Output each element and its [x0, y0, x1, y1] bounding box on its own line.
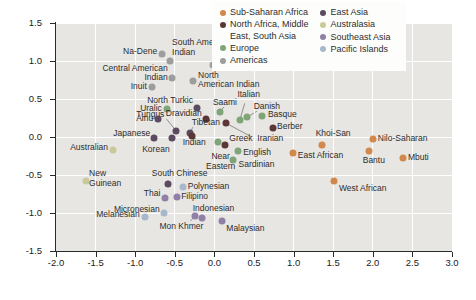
legend-label: North Africa, Middle East, South Asia — [230, 19, 314, 42]
legend-item-pacific-islands: Pacific Islands — [320, 44, 400, 55]
y-tick — [50, 251, 55, 252]
data-point-korean — [168, 134, 175, 141]
data-point-basque — [258, 112, 265, 119]
legend-item-east-asia: East Asia — [320, 7, 400, 18]
point-label-new-guinean: New Guinean — [89, 170, 121, 189]
data-point-inuit — [148, 83, 155, 90]
point-label-thai: Thai — [144, 189, 161, 199]
data-point-filipino — [174, 194, 181, 201]
point-label-west-african: West African — [339, 184, 387, 194]
data-point-italian — [236, 117, 243, 124]
legend-swatch-pacific-islands — [320, 46, 326, 52]
y-tick — [50, 61, 55, 62]
legend-column-right: East AsiaAustralasiaSoutheast AsiaPacifi… — [320, 7, 400, 67]
y-tick-label: 0.5 — [8, 93, 42, 104]
legend-swatch-sub-saharan-africa — [220, 10, 226, 16]
point-label-greek: Greek — [229, 135, 252, 145]
y-tick — [50, 213, 55, 214]
data-point-khoi-san — [319, 142, 326, 149]
point-label-malaysian: Malaysian — [226, 225, 264, 235]
legend-swatch-southeast-asia — [320, 34, 326, 40]
data-point-na-dene — [159, 51, 166, 58]
point-label-mbuti: Mbuti — [408, 154, 429, 164]
y-tick — [50, 99, 55, 100]
data-point-south-chinese — [164, 181, 171, 188]
data-point-mbuti — [399, 155, 406, 162]
data-point-malaysian — [219, 218, 226, 225]
data-point-central-american-indian — [168, 74, 175, 81]
x-tick-label: -2.0 — [39, 257, 73, 268]
point-label-english: English — [243, 148, 271, 158]
data-point-iranian — [223, 120, 230, 127]
y-axis-spine — [55, 22, 56, 252]
data-point-thai — [162, 194, 169, 201]
legend: Sub-Saharan AfricaNorth Africa, Middle E… — [212, 2, 406, 71]
data-point-berber — [270, 124, 277, 131]
point-label-east-african: East African — [298, 151, 343, 161]
point-label-bantu: Bantu — [363, 156, 385, 166]
legend-item-southeast-asia: Southeast Asia — [320, 32, 400, 43]
legend-swatch-east-asia — [320, 10, 326, 16]
point-label-indian: Indian — [183, 138, 206, 148]
figure-container: Na-DeneSouth American IndianChukchiCentr… — [0, 0, 476, 300]
point-label-mon-khmer: Mon Khmer — [159, 222, 203, 232]
legend-item-sub-saharan-africa: Sub-Saharan Africa — [220, 7, 314, 18]
x-tick-label: -1.5 — [79, 257, 113, 268]
x-tick-label: -0.5 — [158, 257, 192, 268]
legend-label: Australasia — [330, 19, 375, 30]
y-tick-label: -1.5 — [8, 245, 42, 256]
point-label-ainu: Ainu — [136, 114, 153, 124]
legend-item-europe: Europe — [220, 43, 314, 54]
legend-swatch-north-africa-middle-east-south-asia — [220, 22, 226, 28]
legend-label: Southeast Asia — [330, 32, 390, 43]
point-label-nilo-saharan: Nilo-Saharan — [378, 135, 428, 145]
point-label-north-american-indian: North American Indian — [198, 71, 259, 90]
x-tick-label: 0.0 — [197, 257, 231, 268]
x-tick-label: 1.0 — [277, 257, 311, 268]
point-label-italian: Italian — [237, 91, 260, 101]
y-tick-label: -1.0 — [8, 207, 42, 218]
y-tick — [50, 175, 55, 176]
data-point-ainu — [155, 115, 162, 122]
data-point-north-american-indian — [190, 77, 197, 84]
point-label-filipino: Filipino — [181, 192, 208, 202]
data-point-west-african — [330, 178, 337, 185]
data-point-japanese — [151, 134, 158, 141]
data-point-australian — [110, 146, 117, 153]
legend-swatch-australasia — [320, 22, 326, 28]
data-point-tungus — [173, 127, 180, 134]
x-tick-label: -1.0 — [118, 257, 152, 268]
data-point-mon-khmer — [192, 213, 199, 220]
legend-label: Americas — [230, 55, 268, 66]
data-point-micronesian — [160, 210, 167, 217]
legend-label: Europe — [230, 43, 259, 54]
y-tick-label: 0.0 — [8, 131, 42, 142]
legend-column-left: Sub-Saharan AfricaNorth Africa, Middle E… — [220, 7, 314, 67]
point-label-na-dene: Na-Dene — [123, 47, 157, 57]
data-point-bantu — [365, 147, 372, 154]
point-label-khoi-san: Khoi-San — [316, 130, 351, 140]
data-point-sardinian — [229, 156, 236, 163]
legend-item-australasia: Australasia — [320, 19, 400, 30]
point-label-indonesian: Indonesian — [193, 205, 235, 215]
legend-item-north-africa-middle-east-south-asia: North Africa, Middle East, South Asia — [220, 19, 314, 42]
data-point-danish — [243, 114, 250, 121]
x-tick-label: 1.5 — [316, 257, 350, 268]
data-point-saami — [216, 108, 223, 115]
point-label-saami: Saami — [213, 98, 237, 108]
point-label-australian: Australian — [70, 143, 108, 153]
x-tick-label: 2.5 — [395, 257, 429, 268]
legend-swatch-europe — [220, 45, 226, 51]
y-tick-label: 1.5 — [8, 17, 42, 28]
data-point-nilo-saharan — [369, 136, 376, 143]
y-tick-label: -0.5 — [8, 169, 42, 180]
point-label-basque: Basque — [268, 110, 297, 120]
y-tick — [50, 23, 55, 24]
legend-swatch-americas — [220, 58, 226, 64]
data-point-polynesian — [179, 184, 186, 191]
point-label-melanesian: Melanesian — [96, 210, 139, 220]
data-point-near-eastern — [221, 142, 228, 149]
point-label-berber: Berber — [277, 122, 303, 132]
point-label-inuit: Inuit — [131, 82, 147, 92]
point-label-south-chinese: South Chinese — [152, 169, 208, 179]
